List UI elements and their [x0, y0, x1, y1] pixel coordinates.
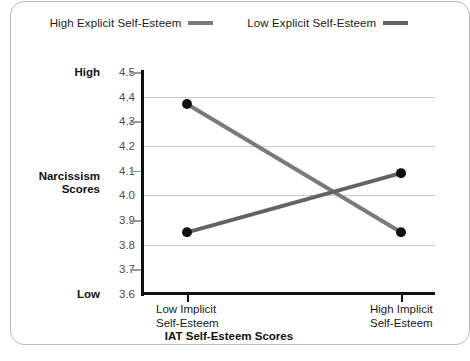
y-axis-title-line1: Narcissism	[28, 170, 100, 183]
x-axis-tickmark	[401, 295, 403, 302]
x-axis-tick-label: High ImplicitSelf-Esteem	[370, 302, 433, 330]
legend-swatch-low-explicit	[383, 21, 408, 25]
legend-item-low-explicit: Low Explicit Self-Esteem	[247, 17, 408, 29]
x-axis-tick-label: Low ImplicitSelf-Esteem	[156, 302, 219, 330]
x-axis-tick-label-line1: Low Implicit	[156, 302, 219, 316]
x-axis-tickmark	[187, 295, 189, 302]
y-axis-anchor-low: Low	[30, 288, 100, 300]
y-axis-tick-label: 3.8	[109, 239, 135, 251]
y-axis-tick-label: 4.2	[109, 140, 135, 152]
gridline	[143, 245, 435, 246]
y-axis-tick-label: 4.0	[109, 189, 135, 201]
x-axis-tick-label-line2: Self-Esteem	[370, 316, 433, 330]
y-axis-line	[141, 70, 144, 296]
gridline	[143, 97, 435, 98]
y-axis-title: Narcissism Scores	[28, 170, 100, 196]
y-axis-title-line2: Scores	[28, 183, 100, 196]
plot-area	[143, 72, 435, 294]
chart-legend: High Explicit Self-Esteem Low Explicit S…	[0, 12, 458, 34]
legend-label-low-explicit: Low Explicit Self-Esteem	[247, 17, 376, 29]
x-axis-tick-label-line2: Self-Esteem	[156, 316, 219, 330]
legend-item-high-explicit: High Explicit Self-Esteem	[50, 17, 214, 29]
x-axis-line	[141, 292, 435, 295]
y-axis-tick-label: 4.4	[109, 91, 135, 103]
y-axis-tick-label: 3.6	[109, 288, 135, 300]
y-axis-tick-labels: 3.63.73.83.94.04.14.24.34.44.5	[107, 72, 135, 294]
gridline	[143, 195, 435, 196]
legend-swatch-high-explicit	[188, 21, 213, 25]
x-axis-title: IAT Self-Esteem Scores	[0, 330, 458, 342]
x-axis-tick-label-line1: High Implicit	[370, 302, 433, 316]
y-axis-anchor-high: High	[30, 66, 100, 78]
legend-label-high-explicit: High Explicit Self-Esteem	[50, 17, 182, 29]
gridline	[143, 146, 435, 147]
